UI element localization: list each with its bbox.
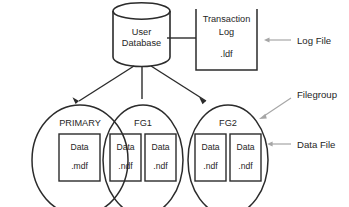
data-file-fg2-0-line2: .ndf (203, 161, 218, 171)
annotation-log-file-arrowhead (264, 38, 270, 43)
annotation-data-file-arrowhead (267, 142, 273, 147)
annotation-log-file-label: Log File (297, 35, 331, 46)
diagram-canvas: User Database Transaction Log .ldf PRIMA… (0, 0, 349, 207)
transaction-log-label-line2: Log (219, 27, 234, 37)
data-file-fg2-1-line1: Data (236, 142, 254, 152)
data-file-fg2-0: Data .ndf (195, 134, 226, 181)
connector-db-to-fg2 (151, 66, 206, 101)
database-architecture-diagram: User Database Transaction Log .ldf PRIMA… (0, 0, 349, 207)
user-database-cylinder: User Database (113, 3, 170, 67)
data-file-primary-0-line1: Data (70, 142, 88, 152)
data-file-fg1-1-line2: .ndf (153, 161, 168, 171)
database-label-line1: User (132, 27, 151, 37)
data-file-fg1-0-line2: .ndf (118, 161, 133, 171)
data-file-fg2-0-line1: Data (201, 142, 219, 152)
connector-group (73, 66, 207, 104)
connector-db-to-primary (79, 66, 134, 101)
arrowhead-db-to-primary (73, 97, 80, 104)
transaction-log-box: Transaction Log .ldf (196, 9, 257, 70)
transaction-log-label-extension: .ldf (220, 49, 233, 59)
data-file-fg1-0-line1: Data (116, 142, 134, 152)
annotation-filegroup-leader (264, 98, 291, 116)
annotation-filegroup-arrowhead (259, 114, 267, 119)
filegroup-primary: PRIMARY Data .mdf (32, 105, 128, 207)
data-file-fg1-0: Data .ndf (110, 134, 141, 181)
annotation-filegroup: Filegroup (259, 89, 337, 119)
data-file-primary-0-line2: .mdf (71, 161, 88, 171)
data-file-fg2-1-line2: .ndf (238, 161, 253, 171)
filegroup-primary-label: PRIMARY (59, 118, 101, 128)
filegroup-fg2-label: FG2 (219, 118, 237, 128)
annotation-data-file-label: Data File (297, 139, 335, 150)
transaction-log-label-line1: Transaction (203, 14, 251, 24)
data-file-fg2-1: Data .ndf (230, 134, 261, 181)
database-label-line2: Database (122, 38, 161, 48)
filegroup-fg2: FG2 Data .ndf Data .ndf (188, 105, 268, 207)
cylinder-top-ellipse (113, 3, 170, 19)
annotation-log-file: Log File (264, 35, 331, 46)
annotation-filegroup-label: Filegroup (297, 89, 337, 100)
annotation-data-file: Data File (267, 139, 335, 150)
filegroup-fg1-label: FG1 (134, 118, 152, 128)
data-file-primary-0: Data .mdf (59, 134, 100, 181)
data-file-fg1-1-line1: Data (151, 142, 169, 152)
data-file-fg1-1: Data .ndf (145, 134, 176, 181)
filegroup-fg1: FG1 Data .ndf Data .ndf (103, 105, 183, 207)
